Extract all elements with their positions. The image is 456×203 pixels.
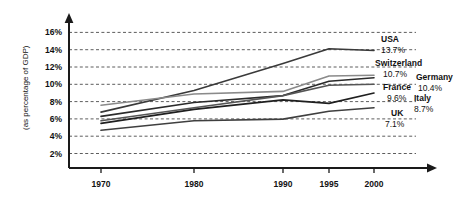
series-label-france-name: France: [383, 82, 411, 92]
x-tick-label: 2000: [365, 179, 384, 189]
y-axis: [65, 13, 74, 168]
series-label-usa-name: USA: [381, 34, 399, 44]
series-label-switzerland-value: 10.7%: [383, 69, 408, 79]
y-tick-label: 16%: [45, 27, 62, 37]
y-tick-label: 14%: [45, 45, 62, 55]
y-tick-label: 4%: [50, 131, 63, 141]
series-label-uk-value: 7.1%: [385, 119, 405, 129]
series-label-switzerland-name: Switzerland: [375, 58, 422, 68]
y-tick-label: 6%: [50, 114, 63, 124]
series-label-usa-value: 13.7%: [381, 45, 406, 55]
y-tick-label: 10%: [45, 79, 62, 89]
series-lines: [101, 49, 374, 131]
y-tick-labels: 16% 14% 12% 10% 8% 6% 4% 2%: [45, 27, 62, 158]
x-tick-label: 1970: [92, 179, 111, 189]
y-axis-title: (as percentage of GDP): [21, 45, 30, 130]
x-tick-label: 1995: [320, 179, 339, 189]
series-label-italy-value: 8.7%: [414, 104, 434, 114]
line-chart: 16% 14% 12% 10% 8% 6% 4% 2% 1970 1980 19…: [0, 0, 456, 203]
series-line-switzerland: [101, 75, 374, 105]
y-tick-label: 12%: [45, 62, 62, 72]
x-tick-label: 1980: [185, 179, 204, 189]
series-label-uk-name: UK: [391, 108, 404, 118]
series-label-france-value: 9.6%: [387, 93, 407, 103]
y-tick-label: 8%: [50, 97, 63, 107]
series-label-germany-name: Germany: [416, 72, 453, 82]
series-labels: USA 13.7% Switzerland 10.7% Germany 10.4…: [375, 34, 453, 129]
chart-canvas: 16% 14% 12% 10% 8% 6% 4% 2% 1970 1980 19…: [0, 0, 456, 203]
y-tick-label: 2%: [50, 149, 63, 159]
series-label-germany-value: 10.4%: [418, 83, 443, 93]
x-tick-label: 1990: [274, 179, 293, 189]
x-axis: [69, 164, 437, 173]
x-tick-labels: 1970 1980 1990 1995 2000: [92, 179, 384, 189]
series-label-italy-name: Italy: [414, 93, 431, 103]
